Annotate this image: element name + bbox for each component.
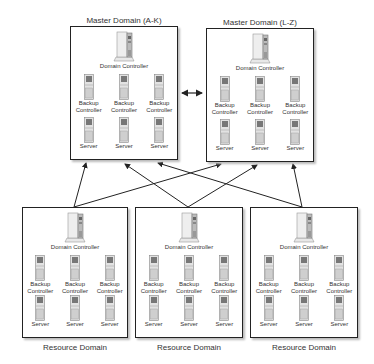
server-tower-icon — [278, 119, 313, 145]
server-tower-icon — [136, 295, 171, 321]
server: Server — [136, 295, 171, 328]
server-tower-icon — [243, 76, 278, 102]
resource-domain-title: Resource Domain — [22, 343, 128, 352]
server-tower-icon — [207, 255, 242, 281]
backup-controller-label: BackupController — [207, 102, 242, 116]
server-tower-icon — [172, 295, 207, 321]
backup-controller: BackupController — [142, 74, 177, 114]
domain-controller: Domain Controller — [136, 211, 242, 250]
server-tower-icon — [107, 74, 142, 100]
server: Server — [243, 119, 278, 152]
domain-controller-label: Domain Controller — [136, 244, 242, 250]
server-tower-icon — [136, 255, 171, 281]
server-tower-icon — [142, 74, 177, 100]
backup-controller: BackupController — [136, 255, 171, 295]
backup-controller: BackupController — [172, 255, 207, 295]
backup-controller-label: BackupController — [207, 281, 242, 295]
server: Server — [71, 117, 106, 150]
backup-controller: BackupController — [23, 255, 57, 295]
server-tower-icon — [287, 295, 322, 321]
backup-controller: BackupController — [287, 255, 322, 295]
domain-controller: Domain Controller — [23, 211, 127, 250]
domain-controller-label: Domain Controller — [251, 244, 357, 250]
server: Server — [322, 295, 357, 328]
server: Server — [172, 295, 207, 328]
backup-controller: BackupController — [71, 74, 106, 114]
resource-domain-1: Domain Controller BackupController Backu… — [22, 207, 128, 338]
trust-arrow-r3-m1 — [158, 163, 302, 207]
server-tower-icon — [58, 295, 92, 321]
server-row: Server Server Server — [251, 295, 357, 328]
backup-controller: BackupController — [92, 255, 126, 295]
server-tower-icon — [58, 255, 92, 281]
server-tower-icon — [322, 255, 357, 281]
server-tower-icon — [23, 255, 57, 281]
server: Server — [142, 117, 177, 150]
backup-controller: BackupController — [58, 255, 92, 295]
resource-domain-title: Resource Domain — [135, 343, 243, 352]
server-label: Server — [207, 321, 242, 328]
server-row: Server Server Server — [207, 119, 313, 152]
backup-controller-label: BackupController — [92, 281, 126, 295]
server-label: Server — [172, 321, 207, 328]
server-tower-icon — [287, 255, 322, 281]
server-label: Server — [243, 145, 278, 152]
backup-controller: BackupController — [251, 255, 286, 295]
backup-controller-label: BackupController — [172, 281, 207, 295]
server-label: Server — [322, 321, 357, 328]
resource-domain-2: Domain Controller BackupController Backu… — [135, 207, 243, 338]
server-label: Server — [136, 321, 171, 328]
server-tower-icon — [71, 117, 106, 143]
server-tower-icon — [243, 119, 278, 145]
domain-controller: Domain Controller — [251, 211, 357, 250]
backup-controller-label: BackupController — [58, 281, 92, 295]
server: Server — [207, 119, 242, 152]
backup-controller-row: BackupController BackupController Backup… — [23, 255, 127, 295]
server: Server — [107, 117, 142, 150]
server: Server — [278, 119, 313, 152]
server-tower-icon — [207, 119, 242, 145]
backup-controller-label: BackupController — [243, 102, 278, 116]
backup-controller: BackupController — [107, 74, 142, 114]
backup-controller: BackupController — [207, 255, 242, 295]
server-label: Server — [287, 321, 322, 328]
backup-controller: BackupController — [322, 255, 357, 295]
backup-controller-label: BackupController — [142, 100, 177, 114]
server-label: Server — [58, 321, 92, 328]
server-tower-icon — [207, 76, 242, 102]
trust-arrow-r2-m2 — [188, 165, 257, 207]
backup-controller: BackupController — [243, 76, 278, 116]
trust-arrow-r2-m1 — [125, 164, 188, 207]
server-label: Server — [207, 145, 242, 152]
server-label: Server — [92, 321, 126, 328]
domain-controller-icon — [71, 30, 177, 62]
backup-controller-label: BackupController — [251, 281, 286, 295]
backup-controller-row: BackupController BackupController Backup… — [207, 76, 313, 116]
server-tower-icon — [92, 295, 126, 321]
server-label: Server — [251, 321, 286, 328]
backup-controller-label: BackupController — [136, 281, 171, 295]
server-label: Server — [71, 143, 106, 150]
server-tower-icon — [251, 295, 286, 321]
domain-controller-label: Domain Controller — [71, 63, 177, 69]
server-tower-icon — [71, 74, 106, 100]
backup-controller-label: BackupController — [107, 100, 142, 114]
server-tower-icon — [322, 295, 357, 321]
backup-controller: BackupController — [207, 76, 242, 116]
backup-controller: BackupController — [278, 76, 313, 116]
trust-arrow-r3-m2 — [293, 164, 302, 207]
backup-controller-row: BackupController BackupController Backup… — [251, 255, 357, 295]
server-row: Server Server Server — [136, 295, 242, 328]
server-tower-icon — [142, 117, 177, 143]
backup-controller-label: BackupController — [278, 102, 313, 116]
server-tower-icon — [207, 295, 242, 321]
server-label: Server — [142, 143, 177, 150]
server-row: Server Server Server — [71, 117, 177, 150]
server-tower-icon — [23, 295, 57, 321]
server-tower-icon — [92, 255, 126, 281]
domain-controller: Domain Controller — [207, 32, 313, 71]
server-row: Server Server Server — [23, 295, 127, 328]
server-tower-icon — [251, 255, 286, 281]
domain-controller-label: Domain Controller — [23, 244, 127, 250]
backup-controller-label: BackupController — [287, 281, 322, 295]
